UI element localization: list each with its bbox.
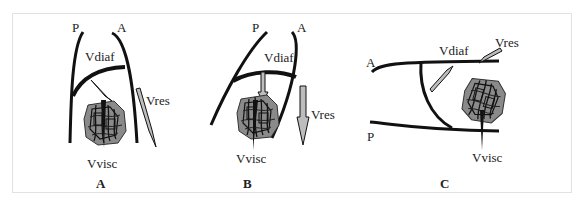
diagram-canvas: P A Vdiaf Vres Vvisc A P A Vdiaf Vres Vv… [0,0,583,203]
diaphragm-vector-arrow-c [430,66,453,92]
posterior-wall-c [370,122,499,131]
viscera-c [458,74,510,127]
diaphragm-vector-arrow-a [91,80,112,101]
vdiaf-label-a: Vdiaf [85,49,115,64]
viscera-b [237,95,279,139]
anterior-label-b: A [297,20,307,35]
panel-a: P A Vdiaf Vres Vvisc A [70,20,170,195]
posterior-label-c: P [367,129,374,144]
diaphragm-a [73,67,125,96]
anterior-label-c: A [366,55,376,70]
vvisc-label-b: Vvisc [236,151,267,166]
vres-label-b: Vres [311,107,335,122]
panel-b: P A Vdiaf Vres Vvisc B [211,20,335,191]
anterior-label-a: A [117,20,127,35]
panel-caption-c: C [440,176,449,191]
vres-label-a: Vres [146,93,170,108]
vdiaf-label-c: Vdiaf [439,43,469,58]
vdiaf-label-b: Vdiaf [264,50,294,65]
vvisc-label-c: Vvisc [472,150,503,165]
resultant-vector-arrow-b [297,86,309,145]
panel-c: A P Vdiaf Vres Vvisc C [366,35,519,191]
posterior-label-b: P [252,20,259,35]
posterior-label-a: P [72,20,79,35]
vres-label-c: Vres [495,35,519,50]
vvisc-label-a: Vvisc [87,156,118,171]
panel-caption-b: B [243,176,252,191]
panel-caption-a: A [96,176,106,191]
